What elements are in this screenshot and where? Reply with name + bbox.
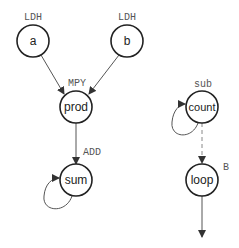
node-sum: ADD sum: [60, 147, 101, 196]
node-label-prod: prod: [64, 100, 88, 114]
node-label-sum: sum: [65, 173, 88, 187]
edge-b-to-prod: [89, 55, 119, 94]
node-label-count: count: [189, 101, 216, 113]
node-label-b: b: [124, 34, 131, 48]
edge-a-to-prod: [41, 55, 64, 94]
node-count: sub count: [186, 79, 218, 123]
op-label-prod: MPY: [68, 78, 86, 89]
op-label-loop: B: [223, 162, 229, 173]
node-label-loop: loop: [191, 173, 214, 187]
op-label-a: LDH: [24, 12, 42, 23]
node-b: LDH b: [111, 12, 143, 57]
node-loop: B loop: [186, 162, 229, 196]
op-label-count: sub: [194, 79, 212, 90]
node-a: LDH a: [17, 12, 49, 57]
op-label-sum: ADD: [83, 147, 101, 158]
node-label-a: a: [30, 34, 37, 48]
op-label-b: LDH: [118, 12, 136, 23]
node-prod: MPY prod: [60, 78, 92, 123]
dataflow-diagram: LDH a LDH b MPY prod ADD sum sub count B…: [0, 0, 239, 248]
